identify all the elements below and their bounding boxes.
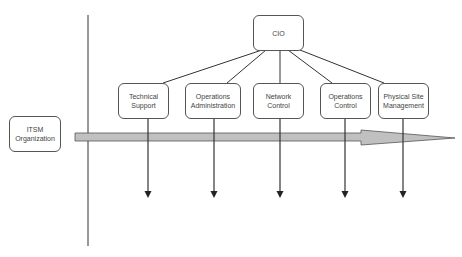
down-arrows <box>145 118 407 198</box>
cio-label: CIO <box>272 29 284 38</box>
down-arrow <box>277 118 284 198</box>
down-arrow <box>342 118 349 198</box>
itsm-organization-box: ITSM Organization <box>9 116 61 152</box>
connector-physical-site-management <box>300 50 384 83</box>
operations-control-box: Operations Control <box>320 83 371 119</box>
operations-administration-box: Operations Administration <box>185 83 241 119</box>
technical-support-box: Technical Support <box>118 83 169 119</box>
cio-box: CIO <box>253 15 304 51</box>
network-control-box: Network Control <box>253 83 304 119</box>
diagram-canvas <box>0 0 462 257</box>
department-label: Operations Administration <box>191 92 235 110</box>
department-label: Operations Control <box>328 92 362 110</box>
connector-operations-control <box>288 50 332 83</box>
connectors <box>163 50 384 83</box>
down-arrow <box>211 118 218 198</box>
department-label: Network Control <box>266 92 292 110</box>
department-label: Technical Support <box>129 92 158 110</box>
timeline-arrow <box>75 130 455 145</box>
down-arrow <box>400 118 407 198</box>
department-label: Physical Site Management <box>383 92 424 110</box>
down-arrow <box>145 118 152 198</box>
itsm-organization-label: ITSM Organization <box>15 125 55 143</box>
physical-site-management-box: Physical Site Management <box>378 83 429 119</box>
